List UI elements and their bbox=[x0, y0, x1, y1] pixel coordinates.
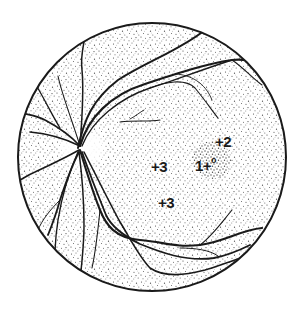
fundus-field bbox=[18, 23, 286, 291]
label-temporal-2: +3 bbox=[158, 195, 174, 210]
fovea-plus: + bbox=[203, 157, 211, 174]
fundus-diagram bbox=[0, 0, 298, 310]
fovea-degree: o bbox=[211, 155, 216, 165]
label-fovea: 1+o bbox=[195, 158, 216, 173]
label-macula-top: +2 bbox=[215, 134, 231, 149]
label-text: +3 bbox=[151, 158, 167, 175]
label-text: +3 bbox=[158, 194, 174, 211]
fovea-number: 1 bbox=[195, 157, 203, 174]
label-text: +2 bbox=[215, 133, 231, 150]
label-temporal-1: +3 bbox=[151, 159, 167, 174]
